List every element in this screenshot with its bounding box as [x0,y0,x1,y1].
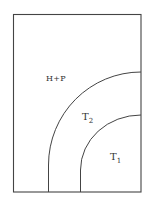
region-label-hp: H+P [46,75,66,83]
outer-boundary-curve [49,72,142,192]
region-label-t2-subscript: 2 [89,117,93,125]
phase-diagram [0,0,150,207]
region-label-t2-main: T [82,111,89,122]
region-label-t1: T1 [110,152,121,162]
region-label-t2: T2 [82,112,93,122]
region-label-t1-subscript: 1 [117,157,121,165]
region-label-t1-main: T [110,151,117,162]
diagram-frame [14,15,142,193]
